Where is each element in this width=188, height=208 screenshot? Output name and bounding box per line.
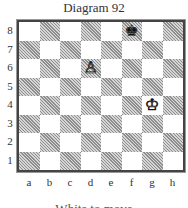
square-e5	[101, 78, 122, 97]
square-b8	[40, 22, 61, 41]
chess-board: ♚♙♔	[17, 20, 185, 172]
square-e2	[101, 133, 122, 152]
square-c3	[60, 115, 81, 134]
square-a1	[19, 152, 40, 171]
square-g6	[142, 59, 163, 78]
square-b5	[40, 78, 61, 97]
square-e1	[101, 152, 122, 171]
square-a7	[19, 41, 40, 60]
square-c1	[60, 152, 81, 171]
square-g3	[142, 115, 163, 134]
square-d5	[81, 78, 102, 97]
square-f2	[122, 133, 143, 152]
square-c8	[60, 22, 81, 41]
square-c7	[60, 41, 81, 60]
square-h2	[163, 133, 184, 152]
square-d2	[81, 133, 102, 152]
file-label-a: a	[19, 176, 39, 188]
file-label-h: h	[163, 176, 183, 188]
square-f1	[122, 152, 143, 171]
square-a3	[19, 115, 40, 134]
square-a4	[19, 96, 40, 115]
square-a2	[19, 133, 40, 152]
square-c4	[60, 96, 81, 115]
diagram-title: Diagram 92	[0, 0, 188, 16]
square-f4	[122, 96, 143, 115]
file-label-g: g	[142, 176, 162, 188]
square-h6	[163, 59, 184, 78]
square-h8	[163, 22, 184, 41]
white-pawn-icon: ♙	[84, 60, 98, 76]
square-e4	[101, 96, 122, 115]
square-h1	[163, 152, 184, 171]
square-e8	[101, 22, 122, 41]
square-g1	[142, 152, 163, 171]
rank-label-4: 4	[6, 98, 14, 110]
square-f8: ♚	[122, 22, 143, 41]
square-b2	[40, 133, 61, 152]
square-g4: ♔	[142, 96, 163, 115]
rank-label-3: 3	[6, 117, 14, 129]
square-g7	[142, 41, 163, 60]
square-g5	[142, 78, 163, 97]
square-d4	[81, 96, 102, 115]
square-d3	[81, 115, 102, 134]
diagram-caption: White to move	[0, 201, 188, 208]
square-d6: ♙	[81, 59, 102, 78]
square-d7	[81, 41, 102, 60]
rank-label-1: 1	[6, 154, 14, 166]
square-c2	[60, 133, 81, 152]
square-f5	[122, 78, 143, 97]
square-e7	[101, 41, 122, 60]
file-label-c: c	[60, 176, 80, 188]
square-c5	[60, 78, 81, 97]
square-d1	[81, 152, 102, 171]
rank-label-6: 6	[6, 61, 14, 73]
file-label-d: d	[81, 176, 101, 188]
square-g2	[142, 133, 163, 152]
rank-label-2: 2	[6, 135, 14, 147]
square-b7	[40, 41, 61, 60]
square-f3	[122, 115, 143, 134]
square-a8	[19, 22, 40, 41]
square-h7	[163, 41, 184, 60]
square-a6	[19, 59, 40, 78]
square-d8	[81, 22, 102, 41]
rank-label-7: 7	[6, 43, 14, 55]
square-b6	[40, 59, 61, 78]
file-label-e: e	[101, 176, 121, 188]
rank-label-8: 8	[6, 24, 14, 36]
square-b1	[40, 152, 61, 171]
square-b3	[40, 115, 61, 134]
square-h4	[163, 96, 184, 115]
square-e6	[101, 59, 122, 78]
square-a5	[19, 78, 40, 97]
white-king-icon: ♔	[145, 97, 159, 113]
square-f6	[122, 59, 143, 78]
square-h5	[163, 78, 184, 97]
square-h3	[163, 115, 184, 134]
square-b4	[40, 96, 61, 115]
square-g8	[142, 22, 163, 41]
square-e3	[101, 115, 122, 134]
rank-label-5: 5	[6, 80, 14, 92]
square-c6	[60, 59, 81, 78]
square-f7	[122, 41, 143, 60]
file-label-b: b	[40, 176, 60, 188]
black-king-icon: ♚	[125, 23, 139, 39]
file-label-f: f	[122, 176, 142, 188]
